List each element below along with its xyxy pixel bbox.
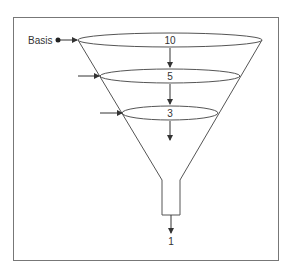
diagram-frame	[14, 18, 279, 261]
output-label: 1	[168, 236, 174, 247]
funnel-diagram: Basis 10 5 3 1	[0, 0, 291, 272]
stage-label-1: 10	[164, 35, 176, 46]
stage-label-3: 3	[167, 108, 173, 119]
basis-dot-icon	[56, 38, 61, 43]
funnel-spout	[162, 180, 180, 215]
funnel-right-side	[180, 40, 262, 180]
funnel-left-side	[78, 40, 162, 180]
stage-label-2: 5	[167, 71, 173, 82]
basis-label: Basis	[28, 35, 52, 46]
